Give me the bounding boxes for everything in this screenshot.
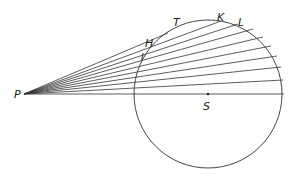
label-P: P bbox=[14, 88, 21, 101]
label-H: H bbox=[145, 37, 153, 50]
diagram-canvas: P S T K L H I bbox=[0, 0, 299, 175]
ray-1 bbox=[24, 80, 283, 94]
rays-group bbox=[24, 21, 284, 94]
ray-5 bbox=[24, 37, 263, 94]
label-K: K bbox=[217, 11, 225, 24]
ray-6 bbox=[24, 29, 253, 94]
label-T: T bbox=[173, 16, 181, 29]
label-S: S bbox=[203, 100, 210, 113]
ray-2 bbox=[24, 67, 281, 94]
center-point-S bbox=[207, 93, 209, 95]
label-I: I bbox=[141, 52, 144, 62]
circle-rays-diagram: P S T K L H I bbox=[0, 0, 299, 175]
label-L: L bbox=[238, 16, 244, 29]
ray-8 bbox=[24, 21, 221, 94]
ray-3 bbox=[24, 56, 277, 94]
